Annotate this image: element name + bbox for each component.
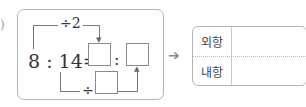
answer-table: 외항 내항: [192, 26, 306, 86]
bottom-operation-label: ÷: [80, 82, 96, 98]
colon-right: :: [114, 50, 119, 69]
inner-terms-input[interactable]: [232, 57, 306, 86]
left-term: 8: [28, 50, 40, 72]
answer-box-first[interactable]: [88, 43, 111, 66]
table-row-outer-terms: 외항: [193, 27, 306, 56]
colon: :: [46, 50, 52, 72]
problem-number-fragment: ): [0, 18, 5, 32]
outer-terms-input[interactable]: [232, 27, 306, 56]
arrow-up-icon: ▲: [134, 65, 139, 73]
answer-box-second[interactable]: [126, 43, 149, 66]
table-row-inner-terms: 내항: [193, 56, 306, 86]
top-operation-label: ÷2: [58, 15, 83, 31]
outer-terms-label: 외항: [193, 27, 232, 56]
right-term: 14: [59, 50, 83, 72]
inner-terms-label: 내항: [193, 57, 232, 86]
divisor-box[interactable]: [95, 71, 118, 94]
ratio-diagram-panel: ▼ ÷2 8 : 14= : ÷ ▲: [17, 9, 164, 100]
top-bracket-left: [33, 25, 34, 49]
bottom-bracket-left: [60, 72, 61, 91]
bottom-bracket-horizontal-right: [118, 91, 137, 92]
arrow-right-icon: ➔: [168, 47, 180, 63]
